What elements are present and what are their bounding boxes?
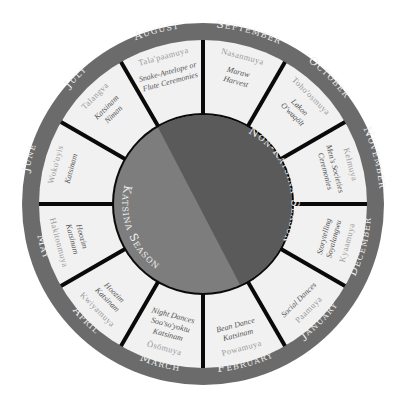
hopi-calendar-wheel: SeptemberNasanmuyaMarawHarvestOctoberToh… bbox=[0, 0, 396, 405]
